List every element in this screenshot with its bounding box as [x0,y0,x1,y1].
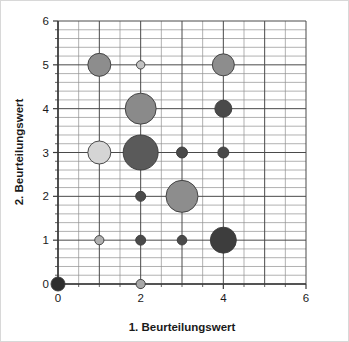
x-tick-label: 2 [137,292,143,304]
data-bubble [136,279,145,288]
y-tick-label: 5 [43,59,49,71]
data-bubble [88,53,111,76]
x-tick-label: 6 [303,292,309,304]
data-bubble [218,147,229,158]
data-bubble [177,235,187,245]
y-tick-label: 4 [43,103,50,115]
y-tick-label: 3 [43,147,49,159]
data-bubble [215,100,232,117]
y-tick-label: 1 [43,234,49,246]
data-bubble [125,93,156,124]
x-tick-labels: 0246 [55,292,309,304]
data-bubble [136,191,146,201]
bubble-chart-canvas: 0246 0123456 1. Beurteilungswert 2. Beur… [1,1,349,342]
x-tick-label: 4 [220,292,227,304]
data-bubble [123,135,158,170]
data-bubble [177,147,188,158]
chart-figure: 0246 0123456 1. Beurteilungswert 2. Beur… [0,0,349,342]
y-tick-label: 0 [43,278,49,290]
y-tick-label: 6 [43,15,49,27]
y-axis-title: 2. Beurteilungswert [13,98,25,205]
data-bubble [136,235,146,245]
y-tick-label: 2 [43,190,49,202]
data-bubble [210,227,236,253]
x-tick-label: 0 [55,292,61,304]
x-axis-title: 1. Beurteilungswert [129,321,236,333]
data-bubble [95,236,104,245]
data-bubble [136,61,144,69]
data-bubble [51,277,65,291]
data-bubble [166,180,198,212]
data-bubble [88,141,111,164]
y-tick-labels: 0123456 [43,15,50,290]
data-bubble [212,54,234,76]
